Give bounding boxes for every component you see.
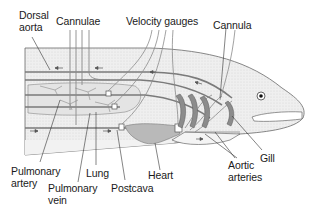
label-gill: Gill	[260, 153, 275, 165]
label-aortic-arteries: Aortic arteries	[228, 160, 262, 183]
label-lung: Lung	[86, 168, 109, 180]
lung	[28, 83, 141, 115]
label-cannulae: Cannulae	[56, 16, 100, 28]
velocity-gauge-pulmonary-vein	[112, 104, 117, 109]
label-velocity-gauges: Velocity gauges	[126, 16, 198, 28]
label-pulmonary-vein: Pulmonary vein	[48, 183, 97, 206]
velocity-gauge-postcava	[119, 124, 124, 130]
label-postcava: Postcava	[111, 183, 153, 195]
label-dorsal-aorta: Dorsal aorta	[19, 10, 49, 33]
velocity-gauge-pulmonary-artery	[106, 91, 111, 96]
label-cannula: Cannula	[213, 20, 251, 32]
label-heart: Heart	[148, 170, 173, 182]
pectoral-fin	[172, 132, 240, 145]
